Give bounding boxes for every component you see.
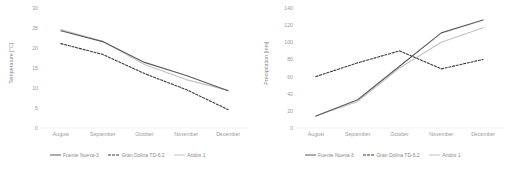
x-axis-ticks: AugustSeptemberOctoberNovemberDecember <box>295 131 504 141</box>
x-axis-tick-label: September <box>345 131 370 137</box>
x-axis-tick-label: September <box>90 131 115 137</box>
y-axis-tick-label: 100 <box>284 39 293 45</box>
y-axis-tick-label: 15 <box>32 65 38 71</box>
y-axis-tick-label: 80 <box>287 56 293 62</box>
legend-item[interactable]: Fuente Nueva-3 <box>305 152 354 158</box>
x-axis-tick-label: December <box>216 131 240 137</box>
series-line <box>61 31 228 91</box>
legend-swatch-icon <box>363 153 374 157</box>
figure-container: Temperature [°C] 051015202530 AugustSept… <box>0 0 510 169</box>
temperature-chart-panel: Temperature [°C] 051015202530 AugustSept… <box>0 0 255 169</box>
legend-label: Gran Dolina TD-6.2 <box>121 152 164 158</box>
x-axis-tick-label: November <box>429 131 453 137</box>
x-axis-tick-label: August <box>308 131 324 137</box>
legend-swatch-icon <box>305 153 316 157</box>
y-axis-label: Temperature [°C] <box>4 0 18 125</box>
plot-area <box>40 8 249 128</box>
legend-swatch-icon <box>50 153 61 157</box>
chart-legend: Fuente Nueva-3Gran Dolina TD-6.2Aridos 1 <box>255 149 510 161</box>
series-line <box>316 51 483 77</box>
y-axis-tick-label: 20 <box>32 45 38 51</box>
y-axis-tick-label: 10 <box>32 85 38 91</box>
series-line <box>61 44 228 110</box>
plot-area <box>295 8 504 128</box>
legend-item[interactable]: Gran Dolina TD-6.2 <box>108 152 165 158</box>
y-axis-tick-label: 40 <box>287 91 293 97</box>
x-axis-ticks: AugustSeptemberOctoberNovemberDecember <box>40 131 249 141</box>
legend-label: Gran Dolina TD-6.2 <box>376 152 419 158</box>
y-axis-tick-label: 140 <box>284 5 293 11</box>
legend-item[interactable]: Aridos 1 <box>174 152 206 158</box>
y-axis-tick-label: 0 <box>35 125 38 131</box>
y-axis-tick-label: 20 <box>287 108 293 114</box>
legend-item[interactable]: Aridos 1 <box>429 152 461 158</box>
y-axis-tick-label: 5 <box>35 105 38 111</box>
y-axis-tick-label: 30 <box>32 5 38 11</box>
x-axis-tick-label: October <box>390 131 408 137</box>
series-canvas <box>295 8 504 128</box>
precipitation-chart-panel: Precipitation [mm] 020406080100120140 Au… <box>255 0 510 169</box>
x-axis-tick-label: December <box>471 131 495 137</box>
y-axis-tick-label: 60 <box>287 74 293 80</box>
legend-swatch-icon <box>429 153 440 157</box>
legend-swatch-icon <box>108 153 119 157</box>
chart-legend: Fuente Nueva-3Gran Dolina TD-6.2Aridos 1 <box>0 149 255 161</box>
x-axis-tick-label: October <box>135 131 153 137</box>
y-axis-label-text: Temperature [°C] <box>8 42 14 83</box>
legend-item[interactable]: Gran Dolina TD-6.2 <box>363 152 420 158</box>
y-axis-ticks: 051015202530 <box>18 8 38 128</box>
legend-label: Aridos 1 <box>187 152 205 158</box>
y-axis-ticks: 020406080100120140 <box>273 8 293 128</box>
legend-swatch-icon <box>174 153 185 157</box>
legend-item[interactable]: Fuente Nueva-3 <box>50 152 99 158</box>
x-axis-tick-label: November <box>174 131 198 137</box>
series-canvas <box>40 8 249 128</box>
y-axis-label-text: Precipitation [mm] <box>263 41 269 84</box>
x-axis-tick-label: August <box>53 131 69 137</box>
legend-label: Aridos 1 <box>442 152 460 158</box>
y-axis-tick-label: 120 <box>284 22 293 28</box>
y-axis-tick-label: 0 <box>290 125 293 131</box>
legend-label: Fuente Nueva-3 <box>63 152 99 158</box>
y-axis-tick-label: 25 <box>32 25 38 31</box>
series-line <box>316 28 483 116</box>
legend-label: Fuente Nueva-3 <box>318 152 354 158</box>
y-axis-label: Precipitation [mm] <box>259 0 273 125</box>
